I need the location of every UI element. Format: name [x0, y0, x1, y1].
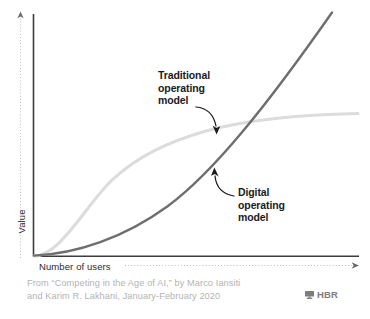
annotation-label-digital-operating-model: Digital operating model [238, 186, 322, 224]
annotation-label-traditional-operating-model: Traditional operating model [158, 69, 238, 107]
chart-figure: Traditional operating model Digital oper… [0, 0, 370, 319]
x-axis-leader-dotted [125, 262, 359, 269]
hbr-monitor-icon [305, 291, 314, 299]
hbr-wordmark: HBR [317, 289, 338, 300]
hbr-logo: HBR [305, 289, 338, 300]
arrowhead-up-icon [211, 168, 219, 177]
x-axis-label: Number of users [39, 261, 111, 272]
series-line-traditional-operating-model [34, 114, 358, 257]
arrow-up-icon [17, 12, 23, 19]
y-axis-label: Value [16, 199, 27, 245]
arrow-right-icon [352, 262, 359, 269]
annotation-arrow-digital [211, 168, 234, 197]
source-caption: From “Competing in the Age of AI,” by Ma… [27, 277, 277, 302]
